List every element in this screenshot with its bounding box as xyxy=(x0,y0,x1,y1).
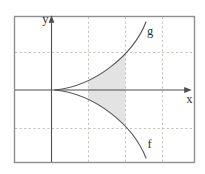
curve-g-label: g xyxy=(147,24,154,38)
cusp-curves-figure: y x g f xyxy=(0,0,205,174)
figure-canvas: y x g f xyxy=(0,0,205,174)
y-axis-label: y xyxy=(42,12,49,26)
curve-f-label: f xyxy=(147,137,152,151)
x-axis-label: x xyxy=(186,92,193,106)
